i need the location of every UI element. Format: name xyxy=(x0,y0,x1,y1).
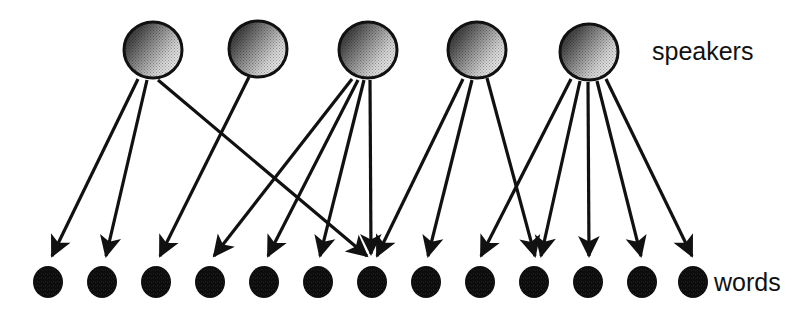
speaker-node[interactable] xyxy=(124,22,182,78)
word-node[interactable] xyxy=(303,266,333,298)
word-node[interactable] xyxy=(627,266,657,298)
word-nodes-group xyxy=(33,266,708,298)
speakers-layer-label: speakers xyxy=(652,39,753,64)
word-node[interactable] xyxy=(465,266,495,298)
word-node[interactable] xyxy=(249,266,279,298)
speaker-node-texture xyxy=(449,23,505,77)
speaker-node[interactable] xyxy=(229,21,287,77)
word-node[interactable] xyxy=(357,266,387,298)
speaker-node-texture xyxy=(125,23,181,77)
word-node[interactable] xyxy=(195,266,225,298)
speaker-nodes-group xyxy=(124,21,618,80)
speaker-node-texture xyxy=(561,25,617,79)
word-node[interactable] xyxy=(33,266,63,298)
words-layer-label: words xyxy=(714,270,781,295)
diagram-canvas: speakers words xyxy=(0,0,798,319)
speaker-node[interactable] xyxy=(560,24,618,80)
word-node[interactable] xyxy=(573,266,603,298)
edge-arrow xyxy=(588,82,589,256)
word-node[interactable] xyxy=(411,266,441,298)
word-node[interactable] xyxy=(678,266,708,298)
edge-arrow xyxy=(158,80,367,256)
speaker-node[interactable] xyxy=(339,22,397,78)
edge-arrow xyxy=(541,81,580,256)
edges-group xyxy=(52,77,692,256)
edge-arrow xyxy=(106,80,147,256)
edge-arrow xyxy=(320,80,364,256)
word-node[interactable] xyxy=(87,266,117,298)
speaker-node-texture xyxy=(230,22,286,76)
speaker-node-texture xyxy=(340,23,396,77)
word-node[interactable] xyxy=(141,266,171,298)
speaker-node[interactable] xyxy=(448,22,506,78)
edge-arrow xyxy=(370,80,371,254)
word-node[interactable] xyxy=(519,266,549,298)
